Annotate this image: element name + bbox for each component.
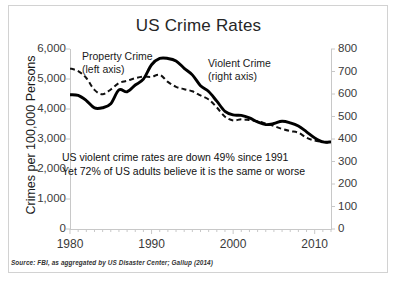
annotation-line-2: Yet 72% of US adults believe it is the s… bbox=[62, 164, 305, 178]
y-tick-left-3000: 3,000 bbox=[20, 133, 66, 144]
y-tick-right-100: 100 bbox=[338, 201, 378, 212]
y-tick-left-4000: 4,000 bbox=[20, 103, 66, 114]
y-axis-right-ticks: 0100200300400500600700800 bbox=[338, 0, 378, 284]
plot-area bbox=[70, 49, 331, 229]
x-tick-1990: 1990 bbox=[127, 237, 177, 251]
y-tick-left-5000: 5,000 bbox=[20, 73, 66, 84]
series-label-violent-crime: Violent Crime (right axis) bbox=[208, 57, 271, 83]
x-tick-1980: 1980 bbox=[45, 237, 95, 251]
x-tick-2010: 2010 bbox=[290, 237, 340, 251]
y-tick-right-400: 400 bbox=[338, 133, 378, 144]
series-label-property-line1: Property Crime bbox=[82, 50, 153, 63]
y-tick-right-300: 300 bbox=[338, 156, 378, 167]
series-label-property-crime: Property Crime (left axis) bbox=[82, 50, 153, 76]
annotation-line-1: US violent crime rates are down 49% sinc… bbox=[62, 150, 288, 164]
y-tick-right-500: 500 bbox=[338, 111, 378, 122]
source-note: Source: FBI, as aggregated by US Disaste… bbox=[11, 259, 213, 266]
chart-figure: US Crime Rates Crimes per 100,000 Person… bbox=[0, 0, 397, 284]
y-tick-left-6000: 6,000 bbox=[20, 43, 66, 54]
y-tick-right-800: 800 bbox=[338, 43, 378, 54]
series-label-violent-line1: Violent Crime bbox=[208, 57, 271, 70]
y-tick-right-200: 200 bbox=[338, 178, 378, 189]
y-axis-right-line bbox=[331, 49, 332, 230]
y-tick-right-600: 600 bbox=[338, 88, 378, 99]
x-tick-2000: 2000 bbox=[208, 237, 258, 251]
y-tick-left-2000: 2,000 bbox=[20, 163, 66, 174]
y-tick-left-0: 0 bbox=[20, 223, 66, 234]
series-label-property-line2: (left axis) bbox=[82, 63, 153, 76]
y-tick-left-1000: 1,000 bbox=[20, 193, 66, 204]
y-tick-right-0: 0 bbox=[338, 223, 378, 234]
y-tick-right-700: 700 bbox=[338, 66, 378, 77]
series-canvas bbox=[70, 49, 331, 230]
series-label-violent-line2: (right axis) bbox=[208, 70, 271, 83]
